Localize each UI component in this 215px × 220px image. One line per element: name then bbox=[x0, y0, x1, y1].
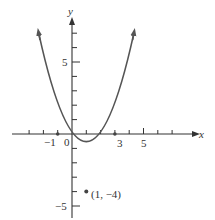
curve-arrow-right bbox=[133, 32, 135, 40]
y-ticks bbox=[72, 33, 80, 206]
x-tick-label-3: 3 bbox=[117, 137, 123, 149]
y-tick-label-5: 5 bbox=[62, 56, 68, 68]
x-axis-label: x bbox=[198, 128, 204, 140]
x-tick-label-neg1: −1 bbox=[44, 136, 56, 148]
vertex-point bbox=[84, 190, 88, 194]
x-intercept-right bbox=[113, 132, 117, 136]
origin-label: 0 bbox=[64, 136, 70, 148]
y-tick-label-neg5: −5 bbox=[55, 200, 67, 212]
parabola-curve bbox=[39, 35, 133, 142]
chart-canvas: x y −1 0 3 5 5 −5 (1, −4) bbox=[0, 0, 215, 220]
curve-arrow-left bbox=[39, 32, 41, 40]
y-axis-label: y bbox=[67, 5, 73, 17]
vertex-label: (1, −4) bbox=[91, 188, 121, 201]
x-intercept-left bbox=[56, 132, 60, 136]
x-tick-label-5: 5 bbox=[141, 137, 147, 149]
